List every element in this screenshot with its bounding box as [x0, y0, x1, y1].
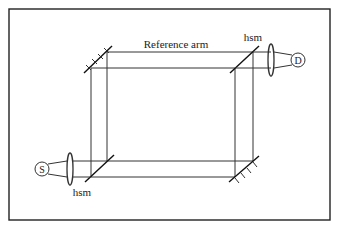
reference-arm-beams	[91, 52, 253, 68]
detector-icon: D	[291, 53, 305, 67]
lens-right-icon	[268, 44, 274, 76]
right-vertical-beams	[235, 52, 253, 177]
hsm-top-label: hsm	[244, 31, 263, 43]
hsm-top-right-icon	[230, 46, 259, 73]
source-icon: S	[35, 162, 49, 176]
hsm-bottom-left-icon	[85, 155, 114, 182]
source-label: S	[39, 164, 45, 175]
interferometer-diagram: D S Reference arm hsm hsm	[0, 0, 342, 226]
mirror-bottom-right-icon	[229, 156, 259, 183]
lens-left-icon	[67, 153, 73, 185]
detector-label: D	[294, 55, 301, 66]
hsm-bottom-label: hsm	[73, 186, 92, 198]
source-beam-taper	[48, 161, 91, 177]
reference-arm-label: Reference arm	[144, 38, 209, 50]
sample-arm-beams	[91, 161, 253, 177]
left-vertical-beams	[91, 52, 107, 177]
mirror-top-left-icon	[84, 46, 112, 73]
